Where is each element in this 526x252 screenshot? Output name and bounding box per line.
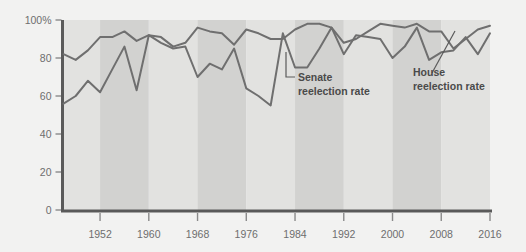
y-axis-tick-label: 80 <box>40 52 52 64</box>
background-band <box>198 20 247 210</box>
y-axis-tick-label: 60 <box>40 90 52 102</box>
x-axis-tick-labels: 195219601968197619841992200020082016 <box>88 228 501 240</box>
senate-annotation-line2: reelection rate <box>298 85 370 97</box>
background-band <box>393 20 442 210</box>
y-axis-tick-label: 20 <box>40 166 52 178</box>
y-axis-tick-label: 40 <box>40 128 52 140</box>
background-band <box>441 20 490 210</box>
y-axis-tick-label: 100% <box>25 14 52 26</box>
reelection-rate-line-chart: 020406080100% 19521960196819761984199220… <box>0 0 526 252</box>
x-axis-tick-label: 1968 <box>186 228 210 240</box>
x-axis-tick-label: 1984 <box>283 228 307 240</box>
house-annotation-line1: House <box>413 66 445 78</box>
y-axis-tick-label: 0 <box>46 204 52 216</box>
background-band <box>64 20 101 210</box>
x-axis-tick-label: 1952 <box>88 228 112 240</box>
background-band <box>344 20 393 210</box>
x-axis-ticks <box>100 213 490 221</box>
x-axis-tick-label: 2000 <box>381 228 405 240</box>
y-axis-tick-labels: 020406080100% <box>25 14 52 216</box>
x-axis-tick-label: 1992 <box>332 228 356 240</box>
x-axis-tick-label: 2016 <box>478 228 502 240</box>
x-axis-tick-label: 1976 <box>235 228 259 240</box>
chart-container: 020406080100% 19521960196819761984199220… <box>0 0 526 252</box>
senate-annotation-line1: Senate <box>298 71 333 83</box>
y-axis-ticks <box>56 20 62 210</box>
x-axis-tick-label: 2008 <box>430 228 454 240</box>
x-axis-tick-label: 1960 <box>137 228 161 240</box>
house-annotation-line2: reelection rate <box>413 80 485 92</box>
background-bands <box>64 20 491 210</box>
